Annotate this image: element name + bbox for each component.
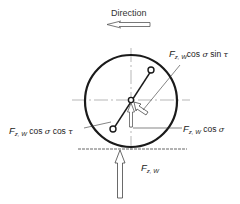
force-subscript: z, W: [15, 131, 27, 137]
direction-label: Direction: [111, 9, 147, 18]
label-cos-sigma-sin-tau: Fz, Wcos σ sin τ: [169, 49, 228, 60]
label-cos-sigma-cos-tau: Fz, W cos σ cos τ: [9, 126, 73, 137]
cos-text: cos: [203, 124, 216, 134]
vertical-load-arrow-icon: [115, 150, 125, 198]
sigma-symbol: σ: [202, 50, 207, 59]
tau-symbol: τ: [224, 50, 228, 59]
sin-tau-component-arrow-icon: [134, 102, 148, 115]
cos-text: cos: [187, 49, 200, 59]
sin-text: sin: [210, 49, 221, 59]
label-vertical-load: Fz, W: [141, 163, 159, 174]
direction-arrow-icon: [107, 21, 150, 28]
sigma-symbol: σ: [219, 125, 224, 134]
sigma-symbol: σ: [45, 127, 50, 136]
label-cos-sigma: Fz, W cos σ: [183, 124, 224, 135]
force-subscript: z, W: [175, 54, 187, 60]
force-subscript: z, W: [189, 129, 201, 135]
cos-text: cos: [29, 126, 42, 136]
force-subscript: z, W: [147, 168, 159, 174]
wheel-force-diagram: [0, 0, 240, 204]
tau-symbol: τ: [68, 127, 72, 136]
cos-text-2: cos: [53, 126, 66, 136]
